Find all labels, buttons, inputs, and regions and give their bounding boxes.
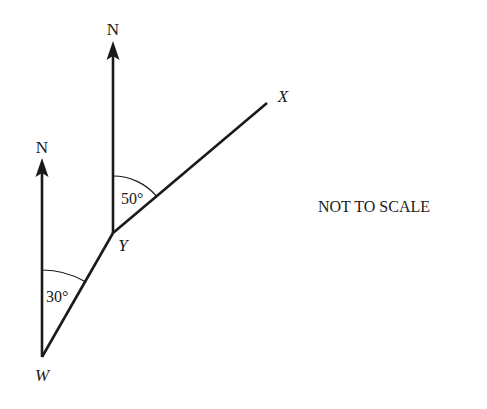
point-label-x: X xyxy=(277,87,289,106)
north-arrow-w: N xyxy=(36,138,49,357)
angle-arc-w xyxy=(42,270,86,282)
angle-label-w: 30° xyxy=(46,288,68,305)
north-label-w: N xyxy=(36,138,48,157)
north-arrow-y: N xyxy=(107,20,120,233)
not-to-scale-note: NOT TO SCALE xyxy=(318,198,430,215)
angle-label-y: 50° xyxy=(121,190,143,207)
point-label-y: Y xyxy=(118,236,129,255)
north-label-y: N xyxy=(107,20,119,39)
point-label-w: W xyxy=(35,366,51,385)
bearings-diagram: N N 30° 50° W Y X NOT TO SCALE xyxy=(0,0,487,409)
segment-yx xyxy=(113,103,267,233)
